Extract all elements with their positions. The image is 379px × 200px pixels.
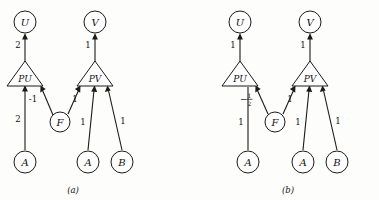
node-label-b-u: U: [236, 17, 245, 28]
edge-b-b1-pv: 1: [320, 86, 341, 151]
edge-f-pu: -1: [29, 86, 53, 116]
edge-weight-f-pu: -1: [29, 94, 37, 104]
node-label-f: F: [56, 117, 65, 128]
node-a2: A: [77, 151, 99, 173]
edge-weight-b-pv-v: 1: [300, 40, 305, 50]
edge-weight-a1-pu: 2: [15, 114, 20, 124]
panel-caption-a: (a): [67, 185, 79, 195]
edge-a2-pv: 1: [80, 85, 97, 150]
node-label-u: U: [21, 17, 30, 28]
edge-f-pv: 1: [68, 86, 81, 115]
node-v: V: [84, 11, 106, 33]
edge-weight-b-f-pv: 1: [287, 94, 292, 104]
node-b-f: F: [265, 112, 285, 132]
node-label-b-a2: A: [298, 157, 306, 168]
edge-weight-b-a1-pu: 1: [238, 117, 243, 127]
edge-weight-b-a2-pv: 1: [295, 117, 300, 127]
panel-a: 2 -1 1 1: [7, 11, 133, 195]
node-label-a1: A: [20, 157, 28, 168]
edge-weight-b-f-pu: − 1 2: [240, 92, 253, 107]
edge-weight-f-pv: 1: [72, 94, 77, 104]
node-b-b1: B: [326, 151, 348, 173]
node-f: F: [50, 112, 70, 132]
node-u: U: [14, 11, 36, 33]
edge-b1-pv: 1: [105, 86, 126, 151]
node-pu: PU: [7, 61, 43, 86]
edge-weight-b-b1-pv: 1: [335, 116, 340, 126]
edge-pu-u: 2: [15, 33, 28, 62]
edge-weight-b-pu-u: 1: [230, 40, 235, 50]
node-b-pv: PV: [292, 61, 328, 86]
panel-b: 1 − 1 2 1: [222, 11, 348, 195]
edge-weight-b-f-pu-sign: −: [240, 94, 247, 104]
node-label-b-b1: B: [332, 157, 340, 168]
edge-b-f-pu: − 1 2: [240, 86, 268, 115]
panel-caption-b: (b): [282, 185, 294, 195]
figure-root: 2 -1 1 1: [0, 0, 379, 200]
node-label-pu: PU: [17, 74, 32, 84]
edge-a1-pu: 2: [15, 85, 28, 150]
edge-b-pu-u: 1: [230, 33, 243, 62]
node-label-b-pu: PU: [232, 74, 247, 84]
edge-b-f-pv: 1: [283, 86, 296, 115]
node-a1: A: [14, 151, 36, 173]
node-b-u: U: [229, 11, 251, 33]
node-label-b-a1: A: [243, 157, 251, 168]
node-label-pv: PV: [88, 74, 103, 84]
edge-weight-b1-pv: 1: [120, 116, 125, 126]
node-label-b-pv: PV: [303, 74, 318, 84]
figure-canvas: 2 -1 1 1: [0, 0, 379, 200]
node-b1: B: [111, 151, 133, 173]
node-b-a1: A: [237, 151, 259, 173]
edge-weight-pv-v: 1: [85, 40, 90, 50]
node-b-pu: PU: [222, 61, 258, 86]
edge-b-pv-v: 1: [300, 33, 313, 62]
node-label-b-f: F: [271, 117, 280, 128]
node-label-a2: A: [83, 157, 91, 168]
edge-b-a2-pv: 1: [295, 85, 312, 150]
node-b-v: V: [299, 11, 321, 33]
edge-weight-b-f-pu-numerator: 1: [248, 92, 252, 99]
edge-weight-a2-pv: 1: [80, 117, 85, 127]
edge-pv-v: 1: [85, 33, 98, 62]
node-pv: PV: [77, 61, 113, 86]
node-b-a2: A: [292, 151, 314, 173]
node-label-b1: B: [117, 157, 125, 168]
edge-weight-pu-u: 2: [15, 40, 20, 50]
edge-weight-b-f-pu-denominator: 2: [248, 100, 252, 107]
